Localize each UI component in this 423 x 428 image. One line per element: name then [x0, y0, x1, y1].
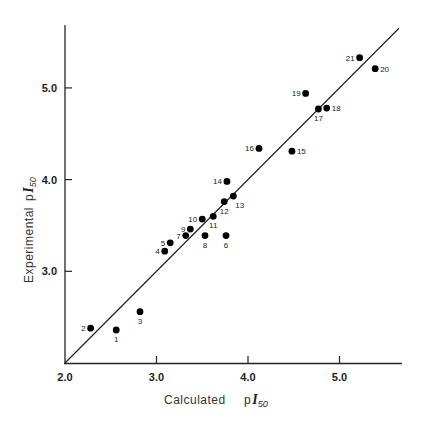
point-marker	[302, 90, 309, 97]
data-point-12: 12	[220, 198, 229, 215]
data-point-11: 11	[209, 213, 218, 230]
point-label: 17	[314, 114, 323, 123]
x-axis-title: Calculated pI50	[164, 392, 268, 409]
x-axis-symbol-prefix: p	[244, 393, 251, 407]
point-marker	[87, 325, 94, 332]
point-label: 9	[181, 225, 186, 234]
data-point-19: 19	[292, 89, 309, 98]
point-marker	[199, 216, 206, 223]
data-point-21: 21	[346, 54, 363, 63]
point-label: 13	[235, 201, 244, 210]
y-tick-label: 4.0	[42, 174, 57, 186]
point-marker	[224, 178, 231, 185]
data-point-18: 18	[323, 104, 341, 113]
y-axis-title: Experimental pI50	[21, 177, 38, 283]
data-point-6: 6	[223, 232, 230, 249]
data-point-16: 16	[245, 144, 262, 153]
point-marker	[113, 327, 120, 334]
x-tick-label: 3.0	[149, 371, 164, 383]
point-label: 4	[155, 247, 160, 256]
point-label: 20	[380, 65, 389, 74]
data-point-14: 14	[213, 177, 230, 186]
point-marker	[202, 232, 209, 239]
y-axis-symbol-prefix: p	[22, 194, 36, 201]
point-marker	[167, 239, 174, 246]
y-axis-title-text: Experimental	[22, 207, 36, 283]
point-marker	[223, 232, 230, 239]
point-marker	[230, 193, 237, 200]
x-axis-title-text: Calculated	[164, 393, 226, 407]
point-marker	[315, 106, 322, 113]
y-axis-symbol: pI50	[21, 177, 38, 201]
point-marker	[356, 54, 363, 61]
point-label: 14	[213, 177, 222, 186]
y-tick-label: 5.0	[42, 82, 57, 94]
point-marker	[372, 65, 379, 72]
point-marker	[137, 308, 144, 315]
point-label: 12	[220, 207, 229, 216]
data-point-8: 8	[202, 232, 209, 249]
data-point-4: 4	[155, 247, 168, 256]
point-label: 21	[346, 54, 355, 63]
point-marker	[221, 198, 228, 205]
data-point-10: 10	[188, 215, 205, 224]
y-ticks: 3.04.05.0	[42, 82, 72, 277]
scatter-chart: 2.03.04.05.0 3.04.05.0 12345678910111213…	[0, 0, 423, 428]
x-ticks: 2.03.04.05.0	[57, 356, 347, 383]
x-axis-symbol-sub: 50	[258, 399, 268, 409]
point-label: 10	[188, 215, 197, 224]
data-point-13: 13	[230, 193, 245, 210]
x-tick-label: 2.0	[57, 371, 72, 383]
data-point-15: 15	[289, 147, 307, 156]
data-point-20: 20	[372, 65, 390, 74]
point-marker	[187, 226, 194, 233]
data-point-2: 2	[81, 324, 94, 333]
point-label: 1	[114, 335, 119, 344]
point-label: 2	[81, 324, 86, 333]
x-tick-label: 5.0	[332, 371, 347, 383]
point-marker	[256, 145, 263, 152]
point-label: 6	[224, 241, 229, 250]
point-marker	[210, 213, 217, 220]
y-axis-symbol-sub: 50	[28, 177, 38, 187]
data-point-5: 5	[161, 239, 174, 248]
point-marker	[323, 105, 330, 112]
point-label: 15	[297, 147, 306, 156]
x-tick-label: 4.0	[240, 371, 255, 383]
data-point-17: 17	[314, 106, 323, 123]
point-marker	[161, 248, 168, 255]
point-label: 16	[245, 144, 254, 153]
point-label: 19	[292, 89, 301, 98]
point-label: 3	[138, 317, 143, 326]
data-point-3: 3	[137, 308, 144, 325]
point-label: 11	[209, 221, 218, 230]
point-label: 18	[332, 104, 341, 113]
point-label: 8	[203, 241, 208, 250]
x-axis-symbol: pI50	[244, 392, 268, 409]
point-label: 5	[161, 239, 166, 248]
point-marker	[289, 148, 296, 155]
data-point-1: 1	[113, 327, 120, 344]
y-tick-label: 3.0	[42, 265, 57, 277]
